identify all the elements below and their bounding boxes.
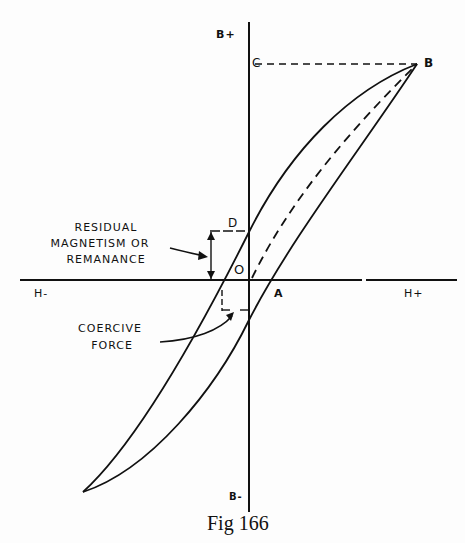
axis-label-b-plus: B+ <box>216 29 236 41</box>
axis-label-h-plus: H+ <box>404 288 424 300</box>
residual-label-line1: RESIDUAL <box>36 222 176 234</box>
coercive-label-line1: COERCIVE <box>60 323 160 335</box>
residual-arrow-up-icon <box>207 232 215 240</box>
hysteresis-diagram <box>0 0 465 543</box>
axis-label-h-minus: H- <box>34 288 48 300</box>
point-label-d: D <box>228 217 238 229</box>
axis-label-b-minus: B- <box>229 491 243 503</box>
residual-arrow-down-icon <box>207 271 215 279</box>
point-label-c: C <box>252 57 261 69</box>
point-label-b: B <box>424 57 434 69</box>
point-label-a: A <box>274 288 284 300</box>
hysteresis-figure: B+ B- H- H+ C B D O A RESIDUAL MAGNETISM… <box>0 0 465 543</box>
coercive-leader-arrow <box>160 316 232 342</box>
initial-magnetization-curve <box>252 64 417 278</box>
point-label-o: O <box>234 264 245 276</box>
residual-leader-arrowhead-icon <box>198 251 208 260</box>
residual-label-line3: REMANANCE <box>36 254 176 266</box>
coercive-leader-arrowhead-icon <box>226 312 234 321</box>
coercive-label-line2: FORCE <box>62 340 162 352</box>
residual-label-line2: MAGNETISM OR <box>30 238 170 250</box>
figure-caption: Fig 166 <box>207 512 269 535</box>
